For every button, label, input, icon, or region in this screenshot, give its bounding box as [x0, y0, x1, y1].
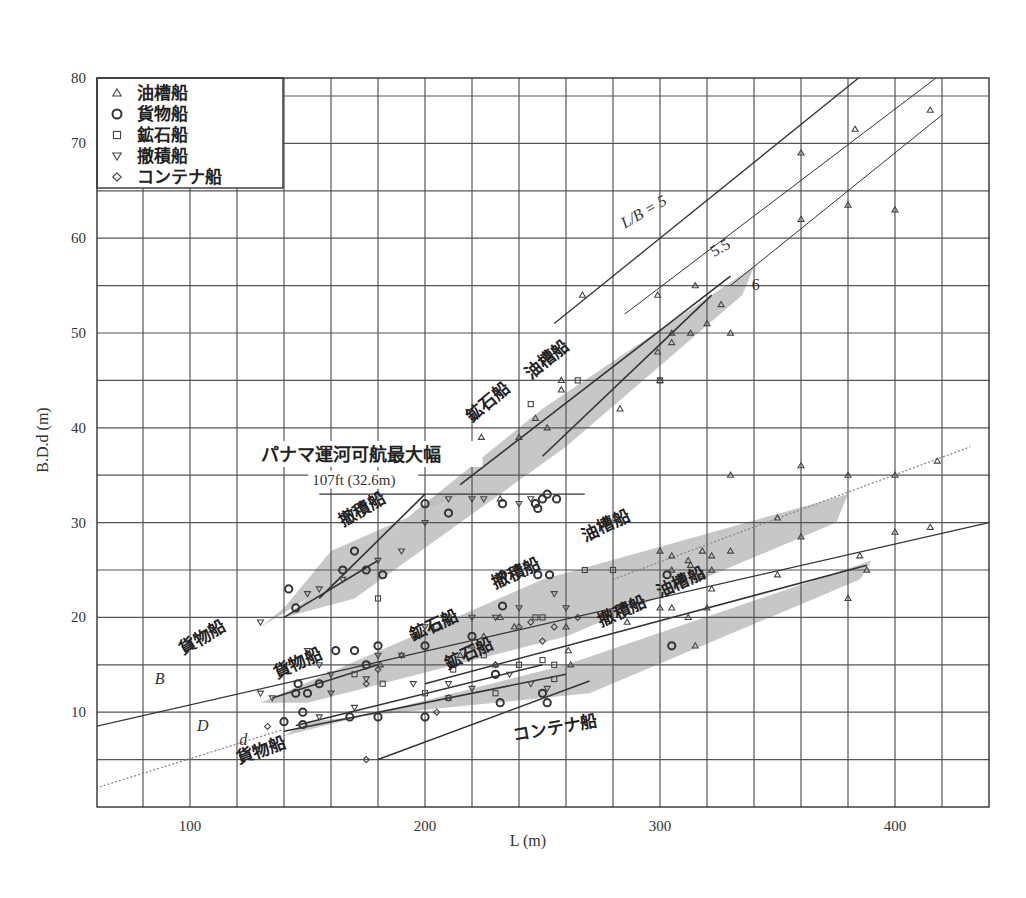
- triangle-marker-icon: [579, 292, 585, 297]
- legend-label: 油槽船: [137, 83, 188, 103]
- legend-label: 貨物船: [137, 104, 188, 124]
- square-marker-icon: [528, 402, 533, 407]
- annotation-label: 油槽船: [520, 335, 572, 383]
- y-tick-label: 50: [71, 325, 86, 341]
- triangle-marker-icon: [775, 572, 781, 577]
- triangle-marker-icon: [927, 524, 933, 529]
- y-tick-label: 60: [71, 230, 86, 246]
- annotation-label: 6: [752, 276, 760, 293]
- chart: L/B = 55.56パナマ運河可航最大幅107ft (32.6m)撤積船鉱石船…: [0, 0, 1026, 898]
- annotation-label: コンテナ船: [512, 710, 599, 744]
- square-marker-icon: [540, 658, 545, 663]
- x-tick-label: 100: [179, 818, 202, 834]
- panama-beam-value: 107ft (32.6m): [312, 472, 395, 489]
- y-axis-label: B.D.d (m): [34, 407, 52, 472]
- y-tick-label: 40: [71, 420, 86, 436]
- triangle-marker-icon: [852, 126, 858, 131]
- circle-marker-icon: [553, 495, 560, 502]
- inverted-triangle-marker-icon: [446, 682, 452, 687]
- x-axis-label: L (m): [510, 832, 546, 850]
- annotation-label: D: [196, 717, 209, 734]
- inverted-triangle-marker-icon: [410, 682, 416, 687]
- triangle-marker-icon: [857, 553, 863, 558]
- annotation-label: L/B = 5: [617, 192, 670, 232]
- x-tick-label: 300: [649, 818, 672, 834]
- legend-label: 鉱石船: [137, 125, 188, 145]
- legend-label: 撤積船: [137, 146, 188, 166]
- annotation-label: B: [155, 670, 165, 687]
- x-tick-label: 200: [414, 818, 437, 834]
- inverted-triangle-marker-icon: [258, 620, 264, 625]
- y-tick-label: 80: [71, 70, 86, 86]
- annotation-label: 油槽船: [578, 506, 633, 546]
- triangle-marker-icon: [927, 107, 933, 112]
- annotation-label: 貨物船: [175, 616, 229, 659]
- triangle-marker-icon: [669, 605, 675, 610]
- y-tick-label: 10: [71, 704, 86, 720]
- legend: 油槽船貨物船鉱石船撤積船コンテナ船: [97, 78, 283, 188]
- circle-marker-icon: [546, 571, 553, 578]
- panama-canal-label: パナマ運河可航最大幅: [261, 444, 441, 465]
- triangle-marker-icon: [617, 406, 623, 411]
- x-tick-label: 400: [884, 818, 907, 834]
- y-tick-label: 30: [71, 515, 86, 531]
- y-tick-label: 20: [71, 609, 86, 625]
- annotation-label: 鉱石船: [462, 378, 514, 426]
- triangle-marker-icon: [478, 434, 484, 439]
- diamond-marker-icon: [265, 723, 271, 729]
- ref-line-L-B-5-5: [625, 77, 938, 314]
- ref-line-L-B-6: [731, 115, 943, 286]
- circle-marker-icon: [285, 585, 292, 592]
- circle-marker-icon: [351, 647, 358, 654]
- circle-marker-icon: [332, 647, 339, 654]
- y-tick-label: 70: [71, 135, 86, 151]
- triangle-marker-icon: [558, 387, 564, 392]
- circle-marker-icon: [544, 699, 551, 706]
- fit-line: [543, 295, 712, 456]
- legend-label: コンテナ船: [137, 167, 222, 187]
- inverted-triangle-marker-icon: [258, 691, 264, 696]
